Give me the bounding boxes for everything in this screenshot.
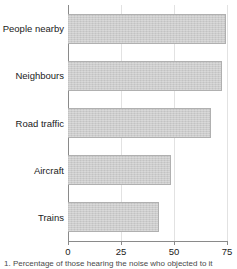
x-tick-mark	[121, 241, 122, 245]
bar-row	[68, 194, 227, 241]
category-label: Road traffic	[0, 118, 64, 129]
x-axis-line	[68, 241, 228, 242]
bar	[68, 155, 171, 185]
x-tick-label: 75	[222, 246, 233, 257]
bar	[68, 108, 211, 138]
category-label: People nearby	[0, 23, 64, 34]
x-tick-label: 25	[116, 246, 127, 257]
bar-row	[68, 99, 227, 146]
category-label: Aircraft	[0, 165, 64, 176]
x-tick-mark	[68, 241, 69, 245]
category-label: Neighbours	[0, 70, 64, 81]
x-tick-label: 0	[65, 246, 70, 257]
x-tick-mark	[174, 241, 175, 245]
x-tick-mark	[227, 241, 228, 245]
bar	[68, 202, 159, 232]
category-label: Trains	[0, 212, 64, 223]
bar-row	[68, 5, 227, 52]
plot-area	[68, 5, 227, 241]
gridline	[227, 5, 228, 241]
bar-row	[68, 52, 227, 99]
x-tick-label: 50	[169, 246, 180, 257]
figure-caption: 1. Percentage of those hearing the noise…	[4, 259, 237, 269]
bar	[68, 61, 222, 91]
bar-row	[68, 147, 227, 194]
bar	[68, 14, 226, 44]
